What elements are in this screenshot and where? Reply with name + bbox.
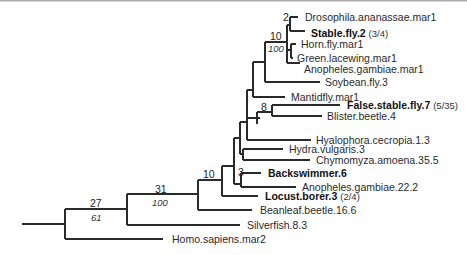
support-27: 27: [90, 197, 102, 209]
leaf-anopheles-gambiae-mar1: Anopheles.gambiae.mar1: [304, 63, 424, 75]
bootstrap-100-lower: 100: [152, 197, 169, 208]
leaf-drosophila-ananassae: Drosophila.ananassae.mar1: [305, 11, 436, 23]
phylogenetic-tree: Drosophila.ananassae.mar1 Stable.fly.2 (…: [0, 0, 467, 255]
leaf-silverfish: Silverfish.8.3: [247, 219, 307, 231]
leaf-note: (5/35): [433, 100, 458, 111]
leaf-locust-borer: Locust.borer.3 (2/4): [265, 190, 360, 202]
leaf-soybean-fly: Soybean.fly.3: [325, 76, 388, 88]
leaf-blister-beetle: Blister.beetle.4: [327, 110, 396, 122]
support-8: 8: [261, 101, 267, 113]
support-10-upper: 10: [270, 30, 282, 42]
leaf-homo-sapiens: Homo.sapiens.mar2: [172, 233, 266, 245]
leaf-note: (3/4): [369, 28, 389, 39]
support-values: 27 61 31 100 10 10 100 2 8 3: [90, 11, 289, 223]
leaf-backswimmer: Backswimmer.6: [268, 167, 347, 179]
bootstrap-100-upper: 100: [268, 43, 285, 54]
bootstrap-61: 61: [91, 212, 102, 223]
leaf-horn-fly: Horn.fly.mar1: [301, 38, 363, 50]
leaf-chymomyza-amoena: Chymomyza.amoena.35.5: [316, 154, 439, 166]
support-10-lower: 10: [203, 168, 215, 180]
support-31: 31: [155, 183, 167, 195]
leaf-beanleaf-beetle: Beanleaf.beetle.16.6: [260, 204, 356, 216]
support-2: 2: [283, 11, 289, 23]
leaf-note: (2/4): [340, 191, 360, 202]
support-3: 3: [238, 166, 244, 178]
